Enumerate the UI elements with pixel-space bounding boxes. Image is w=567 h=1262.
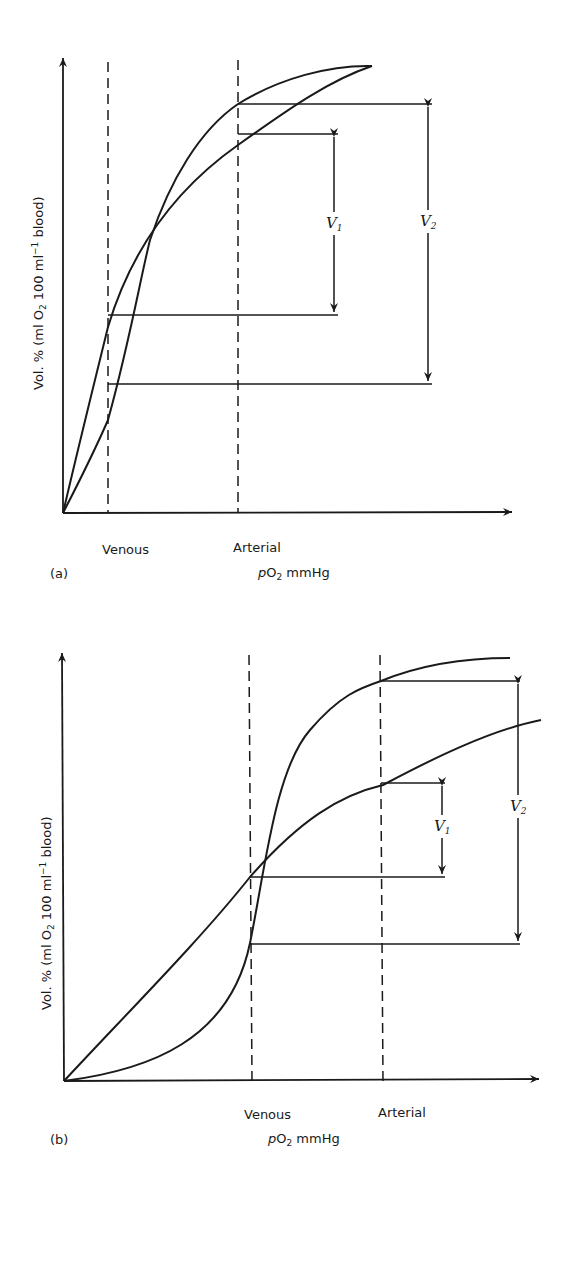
- y-axis: [62, 653, 64, 1081]
- x-axis-label: pO2 mmHg: [258, 565, 330, 582]
- x-tick-venous: Venous: [244, 1107, 291, 1122]
- panel-a-plot: [0, 0, 567, 620]
- curve-hyperbolic: [63, 66, 372, 513]
- panel-b: V1 V2 Vol. % (ml O2 100 ml−1 blood) Veno…: [0, 620, 567, 1262]
- curve-steep: [63, 66, 372, 513]
- y-axis-label: Vol. % (ml O2 100 ml−1 blood): [38, 816, 56, 1010]
- venous-dashed-line: [249, 655, 252, 1081]
- curve-gradual: [64, 720, 541, 1081]
- x-tick-venous: Venous: [102, 542, 149, 557]
- x-axis: [64, 1079, 539, 1081]
- v2-label: V2: [420, 210, 437, 233]
- v2-label: V2: [510, 795, 527, 818]
- panel-a: V1 V2 Vol. % (ml O2 100 ml−1 blood) Veno…: [0, 0, 567, 620]
- panel-label: (a): [50, 566, 68, 581]
- y-axis-label: Vol. % (ml O2 100 ml−1 blood): [30, 196, 48, 390]
- arterial-dashed-line: [380, 655, 383, 1081]
- x-tick-arterial: Arterial: [378, 1105, 426, 1120]
- panel-label: (b): [50, 1132, 68, 1147]
- curve-sigmoid: [64, 658, 510, 1081]
- x-tick-arterial: Arterial: [233, 540, 281, 555]
- x-axis: [63, 512, 512, 513]
- v1-label: V1: [434, 815, 451, 838]
- x-axis-label: pO2 mmHg: [268, 1131, 340, 1148]
- v1-label: V1: [326, 212, 343, 235]
- panel-b-plot: [0, 620, 567, 1262]
